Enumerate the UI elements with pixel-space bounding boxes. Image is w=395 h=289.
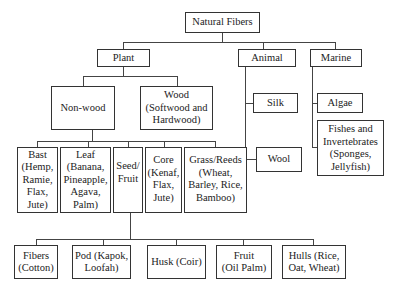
connector — [123, 66, 124, 76]
connector — [130, 213, 131, 239]
node-fishes-invertebrates: Fishes and Invertebrates (Sponges, Jelly… — [317, 120, 384, 176]
node-natural-fibers: Natural Fibers — [185, 12, 260, 33]
node-algae: Algae — [317, 93, 363, 113]
connector — [92, 129, 93, 141]
node-animal: Animal — [238, 49, 296, 67]
connector — [245, 103, 253, 104]
connector — [222, 32, 223, 42]
node-bast: Bast (Hemp, Ramie, Flax, Jute) — [17, 147, 58, 213]
node-silk: Silk — [253, 93, 298, 113]
node-non-wood: Non-wood — [51, 86, 115, 130]
node-fibers-cotton: Fibers (Cotton) — [14, 245, 58, 279]
connector — [83, 76, 177, 77]
node-leaf: Leaf (Banana, Pineapple, Agava, Palm) — [60, 147, 111, 213]
connector — [245, 66, 246, 159]
node-core: Core (Kenaf, Flax, Jute) — [145, 147, 182, 213]
node-seed-fruit: Seed/ Fruit — [113, 147, 143, 213]
connector — [83, 76, 84, 86]
connector — [263, 42, 264, 49]
node-grass-reeds: Grass/Reeds (Wheat, Barley, Rice, Bamboo… — [184, 147, 247, 213]
node-hulls: Hulls (Rice, Oat, Wheat) — [282, 245, 346, 279]
connector — [123, 42, 336, 43]
node-husk: Husk (Coir) — [147, 245, 206, 279]
node-wool: Wool — [256, 147, 302, 172]
connector — [36, 239, 314, 240]
connector — [335, 42, 336, 49]
node-fruit: Fruit (Oil Palm) — [216, 245, 272, 279]
connector — [37, 141, 216, 142]
connector — [177, 76, 178, 86]
node-plant: Plant — [97, 49, 150, 67]
node-pod: Pod (Kapok, Loofah) — [72, 245, 131, 279]
node-wood: Wood (Softwood and Hardwood) — [140, 86, 213, 130]
connector — [312, 66, 313, 148]
connector — [123, 42, 124, 49]
node-marine: Marine — [310, 49, 362, 67]
